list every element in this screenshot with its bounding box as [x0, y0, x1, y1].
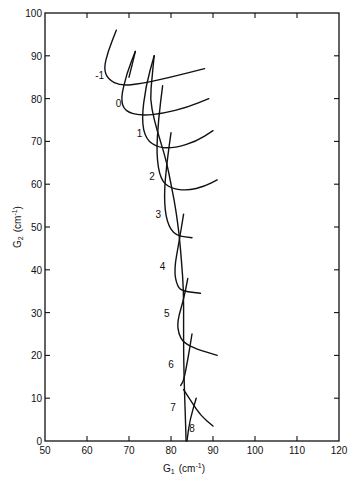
curve-label: 3	[156, 209, 162, 220]
y-tick-label: 20	[31, 350, 43, 361]
curve-label: 5	[164, 308, 170, 319]
x-tick-label: 110	[289, 445, 305, 456]
curve-label: 0	[116, 98, 122, 109]
y-tick-label: 0	[36, 436, 42, 447]
y-tick-label: 60	[31, 179, 43, 190]
curve-6	[181, 334, 192, 385]
plot-border	[45, 13, 339, 441]
x-tick-label: 60	[81, 445, 93, 456]
curve--1	[105, 30, 205, 85]
x-axis-ticks: 5060708090100110120	[39, 13, 347, 456]
x-tick-label: 90	[207, 445, 219, 456]
curve-3	[165, 133, 192, 238]
x-tick-label: 100	[247, 445, 264, 456]
y-tick-label: 10	[31, 393, 43, 404]
chart: 5060708090100110120 01020304050607080901…	[0, 0, 358, 480]
curve-label: 1	[137, 128, 143, 139]
y-axis-title: G2(cm-1)	[11, 206, 24, 248]
curve-label: 6	[168, 359, 174, 370]
plot-frame	[45, 13, 339, 441]
y-tick-label: 30	[31, 308, 43, 319]
y-tick-label: 100	[25, 8, 42, 19]
y-tick-label: 40	[31, 265, 43, 276]
curve-family	[105, 30, 217, 441]
y-tick-label: 70	[31, 136, 43, 147]
curve-label: 4	[160, 261, 166, 272]
curve-7	[187, 398, 196, 441]
curve-label: 8	[189, 423, 195, 434]
x-tick-label: 70	[123, 445, 135, 456]
curve-label: 7	[170, 402, 176, 413]
x-axis-title: G1(cm-1)	[163, 462, 205, 475]
curve-0	[122, 52, 209, 115]
x-tick-label: 80	[165, 445, 177, 456]
curve-label: -1	[95, 70, 104, 81]
curve-6-right	[184, 390, 213, 426]
y-tick-label: 50	[31, 222, 43, 233]
x-tick-label: 120	[331, 445, 348, 456]
curve-label: 2	[149, 171, 155, 182]
y-tick-label: 80	[31, 94, 43, 105]
y-tick-label: 90	[31, 51, 43, 62]
